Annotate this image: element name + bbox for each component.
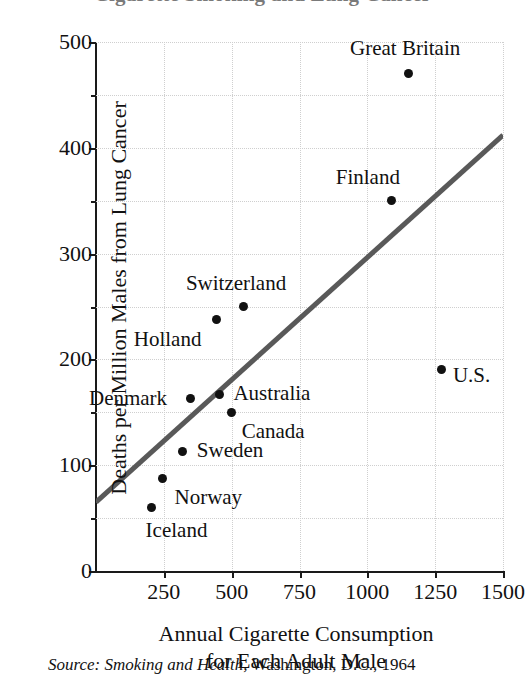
y-tick-label: 0 — [32, 560, 92, 582]
data-point — [212, 315, 221, 324]
plot-area: 0100200300400500 250500750100012501500 I… — [96, 42, 503, 571]
x-axis-title-line1: Annual Cigarette Consumption — [46, 620, 525, 647]
tick-y-minor — [91, 95, 96, 97]
y-tick-label: 300 — [32, 243, 92, 265]
tick-x-major — [435, 571, 437, 578]
data-point-label: Sweden — [197, 440, 264, 461]
gridline-horizontal — [96, 412, 503, 414]
tick-x-major — [503, 571, 505, 578]
data-point — [239, 302, 248, 311]
tick-x-major — [367, 571, 369, 578]
data-point-label: Norway — [174, 487, 242, 508]
gridline-horizontal — [96, 254, 503, 256]
tick-y-minor — [91, 307, 96, 309]
gridline-horizontal — [96, 201, 503, 203]
data-point — [178, 447, 187, 456]
tick-x-major — [164, 571, 166, 578]
data-point-label: Canada — [242, 421, 305, 442]
data-point — [387, 196, 396, 205]
y-tick-label: 400 — [32, 137, 92, 159]
data-point-label: Australia — [233, 383, 310, 404]
tick-x-major — [300, 571, 302, 578]
data-point-label: Holland — [134, 329, 202, 350]
y-tick-label: 500 — [32, 31, 92, 53]
y-tick-label: 200 — [32, 348, 92, 370]
chart-title-text: Cigarette Smoking and Lung Cancer — [0, 0, 525, 7]
x-tick-label: 1500 — [463, 580, 525, 604]
data-point-label: Iceland — [146, 520, 208, 541]
source-note: Source: Smoking and Health, Washington, … — [48, 655, 518, 675]
data-point-label: Finland — [336, 167, 400, 188]
gridline-horizontal — [96, 148, 503, 150]
gridline-horizontal — [96, 307, 503, 309]
gridline-horizontal — [96, 95, 503, 97]
y-tick-label: 100 — [32, 454, 92, 476]
tick-x-major — [232, 571, 234, 578]
data-point — [215, 390, 224, 399]
source-italic: Source: Smoking and Health, — [48, 655, 248, 674]
data-point — [147, 503, 156, 512]
scatter-plot-figure: Cigarette Smoking and Lung Cancer 010020… — [0, 0, 525, 689]
data-point — [186, 394, 195, 403]
data-point — [227, 408, 236, 417]
tick-y-minor — [91, 201, 96, 203]
tick-y-minor — [91, 412, 96, 414]
gridline-horizontal — [96, 359, 503, 361]
gridline-horizontal — [96, 465, 503, 467]
source-roman: Washington, D.C., 1964 — [248, 655, 416, 674]
data-point-label: Great Britain — [350, 38, 460, 59]
data-point-label: U.S. — [453, 365, 490, 386]
chart-title-clipped: Cigarette Smoking and Lung Cancer — [0, 0, 525, 7]
data-point — [404, 69, 413, 78]
tick-y-minor — [91, 518, 96, 520]
y-axis-title: Deaths per Million Males from Lung Cance… — [106, 38, 132, 558]
gridline-vertical — [503, 42, 505, 571]
data-point-label: Switzerland — [186, 273, 286, 294]
data-point — [437, 365, 446, 374]
